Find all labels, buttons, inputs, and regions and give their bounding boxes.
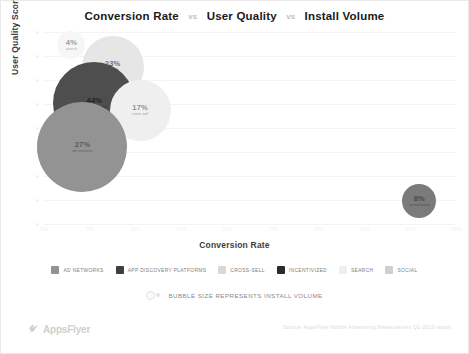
legend-item-search[interactable]: SEARCH: [339, 266, 373, 274]
legend-swatch: [116, 266, 124, 274]
legend-label: SEARCH: [351, 268, 373, 273]
grid-line: [44, 224, 456, 225]
legend-label: INCENTIVIZED: [289, 268, 327, 273]
x-axis-tick-label: 25%: [268, 226, 278, 232]
bubble-incentivized[interactable]: 8%incentivized: [402, 184, 436, 218]
bubble-value: 8%: [414, 195, 425, 203]
plot-area: 4%search23%social44%app discovery17%cros…: [44, 32, 456, 224]
bubble-size-note-text: BUBBLE SIZE REPRESENTS INSTALL VOLUME: [168, 292, 322, 299]
bubble-category-label: search: [66, 48, 77, 52]
source-note: Source: AppsFlyer Mobile Advertising Mea…: [283, 324, 451, 330]
appsflyer-bird-icon: [28, 320, 40, 338]
y-axis-tick: [36, 199, 39, 202]
x-axis-tick-label: 35%: [359, 226, 369, 232]
bubble-ad-networks[interactable]: 27%ad networks: [37, 102, 127, 192]
x-axis-tick-label: 20%: [222, 226, 232, 232]
bubble-value: 27%: [75, 141, 91, 149]
bubble-value: 17%: [132, 104, 148, 112]
bubble-value: 4%: [66, 39, 77, 47]
y-axis-tick: [36, 175, 39, 178]
x-axis-tick-label: 10%: [131, 226, 141, 232]
y-axis-tick: [36, 31, 39, 34]
title-part-conversion-rate: Conversion Rate: [85, 10, 179, 22]
legend-item-social[interactable]: SOCIAL: [385, 266, 417, 274]
bubble-category-label: cross-sell: [132, 113, 148, 117]
legend-item-incentivized[interactable]: INCENTIVIZED: [277, 266, 327, 274]
chart-legend: AD NETWORKSAPP DISCOVERY PLATFORMSCROSS-…: [0, 263, 469, 277]
legend-swatch: [218, 266, 226, 274]
legend-swatch: [385, 266, 393, 274]
grid-line: [44, 32, 456, 33]
y-axis-label: User Quality Score: [10, 0, 20, 75]
title-part-install-volume: Install Volume: [305, 10, 385, 22]
bubble-category-label: ad networks: [72, 150, 92, 154]
legend-swatch: [339, 266, 347, 274]
y-axis-tick: [36, 79, 39, 82]
y-axis-tick: [36, 55, 39, 58]
legend-item-cross-sell[interactable]: CROSS-SELL: [218, 266, 264, 274]
title-separator-1: vs: [188, 12, 197, 21]
x-axis-tick-label: 5%: [86, 226, 93, 232]
bubble-size-icon: [146, 290, 162, 301]
legend-item-app-discovery-platforms[interactable]: APP DISCOVERY PLATFORMS: [116, 266, 207, 274]
x-axis-tick-label: 45%: [451, 226, 461, 232]
x-axis-label: Conversion Rate: [0, 240, 469, 250]
y-axis-tick: [36, 103, 39, 106]
legend-label: AD NETWORKS: [63, 268, 103, 273]
x-axis-tick-label: 40%: [405, 226, 415, 232]
y-axis-tick: [36, 223, 39, 226]
legend-swatch: [51, 266, 59, 274]
legend-label: CROSS-SELL: [230, 268, 264, 273]
bubble-size-note: BUBBLE SIZE REPRESENTS INSTALL VOLUME: [0, 290, 469, 301]
legend-label: APP DISCOVERY PLATFORMS: [128, 268, 207, 273]
legend-label: SOCIAL: [397, 268, 417, 273]
y-axis-tick: [36, 127, 39, 130]
x-axis-tick-label: 15%: [176, 226, 186, 232]
x-axis-ticks: 0%5%10%15%20%25%30%35%40%45%: [44, 226, 456, 238]
x-axis-tick-label: 0%: [40, 226, 47, 232]
legend-swatch: [277, 266, 285, 274]
legend-item-ad-networks[interactable]: AD NETWORKS: [51, 266, 103, 274]
title-separator-2: vs: [286, 12, 295, 21]
appsflyer-wordmark: AppsFlyer: [43, 324, 90, 335]
bubble-category-label: incentivized: [409, 204, 429, 208]
grid-line: [44, 200, 456, 201]
appsflyer-logo: AppsFlyer: [28, 320, 90, 338]
title-part-user-quality: User Quality: [207, 10, 277, 22]
x-axis-tick-label: 30%: [314, 226, 324, 232]
chart-title: Conversion Rate vs User Quality vs Insta…: [0, 10, 469, 22]
